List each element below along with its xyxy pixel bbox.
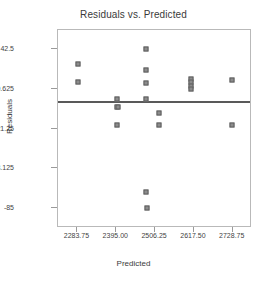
x-axis-tick-mark	[115, 227, 116, 232]
y-axis-tick-label: 42.5	[0, 45, 14, 52]
scatter-point	[75, 62, 80, 67]
scatter-point	[144, 47, 149, 52]
scatter-point	[114, 123, 119, 128]
scatter-point	[230, 123, 235, 128]
x-axis-tick-label: 2395.00	[103, 232, 128, 239]
x-axis-title: Predicted	[0, 259, 267, 268]
scatter-point	[144, 68, 149, 73]
scatter-point	[75, 80, 80, 85]
plot-area	[57, 29, 251, 227]
scatter-point	[157, 111, 162, 116]
scatter-point	[144, 189, 149, 194]
scatter-point	[115, 104, 120, 109]
x-axis-tick-mark	[193, 227, 194, 232]
scatter-point	[157, 123, 162, 128]
x-axis-tick-label: 2506.25	[141, 232, 166, 239]
scatter-point	[144, 80, 149, 85]
scatter-point	[114, 97, 119, 102]
x-axis-tick-label: 2728.75	[219, 232, 244, 239]
scatter-point	[230, 77, 235, 82]
y-axis-tick-label: -53.125	[0, 164, 14, 171]
scatter-point	[144, 97, 149, 102]
x-axis-tick-mark	[154, 227, 155, 232]
y-axis-title: Residuals	[5, 82, 14, 152]
y-axis-tick-label: -85	[0, 204, 14, 211]
residual-plot-figure: Residuals vs. Predicted 42.510.625-21.25…	[0, 0, 267, 282]
x-axis-tick-label: 2617.50	[180, 232, 205, 239]
scatter-point	[189, 87, 194, 92]
page-title: Residuals vs. Predicted	[0, 9, 267, 20]
x-axis-tick-label: 2283.75	[64, 232, 89, 239]
x-axis-tick-mark	[232, 227, 233, 232]
x-axis-tick-mark	[76, 227, 77, 232]
zero-reference-line	[58, 101, 250, 103]
scatter-point	[145, 206, 150, 211]
